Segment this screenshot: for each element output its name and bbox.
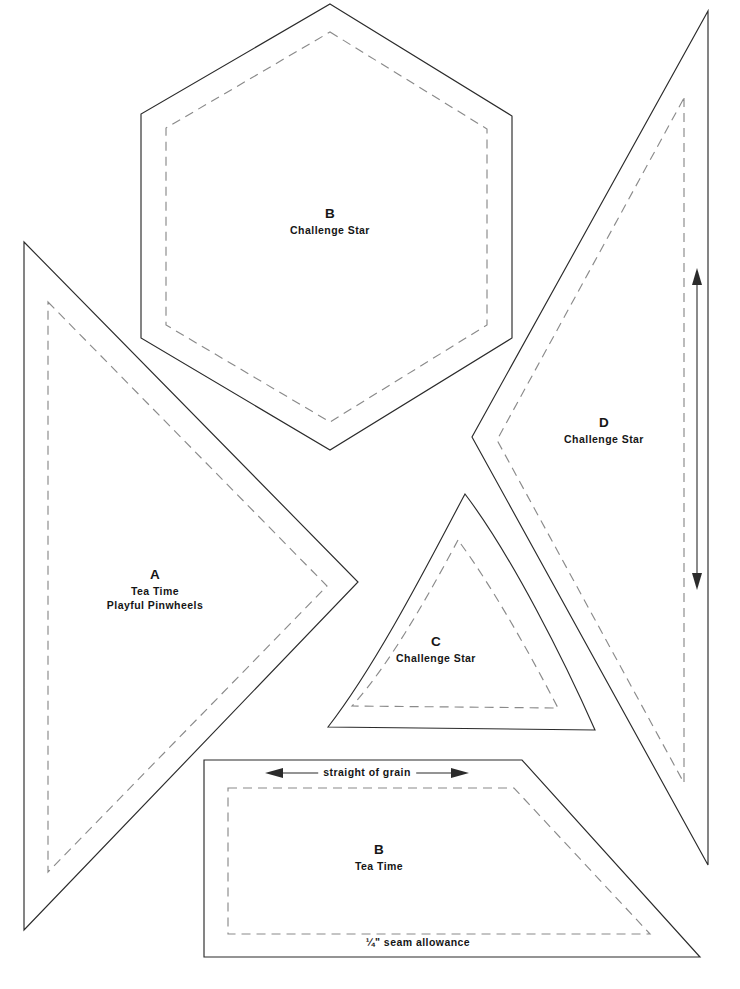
piece-c-curved-triangle-group xyxy=(328,494,595,730)
piece-a-chevron-label: A Tea Time Playful Pinwheels xyxy=(107,566,203,612)
piece-b-trapezoid-letter: B xyxy=(355,841,403,858)
piece-c-curved-triangle-seam-line xyxy=(352,540,558,708)
piece-b-trapezoid-group xyxy=(204,760,700,957)
piece-b-trapezoid-seam-line xyxy=(228,788,650,934)
piece-c-curved-triangle-pattern: Challenge Star xyxy=(396,652,476,665)
piece-c-curved-triangle-cut-line xyxy=(328,494,595,730)
piece-b-hexagon-label: B Challenge Star xyxy=(290,205,370,238)
grain-arrow-vertical xyxy=(692,268,702,590)
pattern-sheet: B Challenge Star A Tea Time Playful Pinw… xyxy=(0,0,740,989)
piece-b-hexagon-pattern: Challenge Star xyxy=(290,224,370,237)
piece-c-curved-triangle-letter: C xyxy=(396,633,476,650)
piece-b-trapezoid-label: B Tea Time xyxy=(355,841,403,874)
piece-b-trapezoid-cut-line xyxy=(204,760,700,957)
piece-c-curved-triangle-label: C Challenge Star xyxy=(396,633,476,666)
piece-d-chevron-label: D Challenge Star xyxy=(564,414,644,447)
piece-b-trapezoid-pattern: Tea Time xyxy=(355,860,403,873)
piece-d-chevron-letter: D xyxy=(564,414,644,431)
seam-allowance-note: ¼" seam allowance xyxy=(361,936,475,948)
piece-b-hexagon-letter: B xyxy=(290,205,370,222)
straight-of-grain-note: straight of grain xyxy=(318,766,416,778)
piece-a-chevron-letter: A xyxy=(107,566,203,583)
piece-a-chevron-pattern-line-1: Tea Time xyxy=(107,585,203,598)
piece-d-chevron-pattern: Challenge Star xyxy=(564,433,644,446)
piece-a-chevron-pattern-line-2: Playful Pinwheels xyxy=(107,599,203,612)
